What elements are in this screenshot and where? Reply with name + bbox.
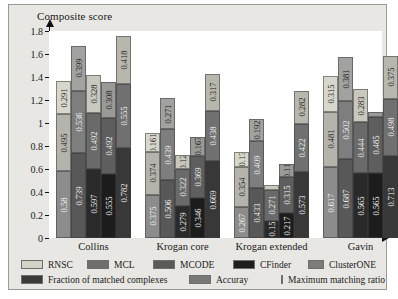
segment-maximum-matching-ratio: 0.13 [234,152,249,167]
legend-method-mcode[interactable]: MCODE [153,260,233,270]
group-label-krogan-core: Krogan core [156,241,208,252]
segment-value-label: 0.399 [74,59,83,78]
segment-accuray: 0.485 [368,117,383,173]
legend-swatch-icon [308,260,324,269]
segment-fraction-of-matched-complexes: 0.279 [175,206,190,238]
segment-accuray: 0.369 [190,156,205,198]
bar-collins-mcl[interactable]: 0.7390.5360.399 [71,46,86,238]
segment-accuray: 0.498 [383,99,398,156]
segment-fraction-of-matched-complexes: 0.617 [323,167,338,238]
segment-fraction-of-matched-complexes: 0.375 [145,195,160,238]
legend-swatch-icon [233,260,255,269]
segment-value-label: 0.315 [282,185,291,204]
bar-gavin-mcl[interactable]: 0.6870.5020.381 [338,57,353,238]
segment-value-label: 0.322 [178,178,187,197]
segment-value-label: 0.381 [341,70,350,89]
segment-value-label: 0.669 [208,190,217,209]
bar-krogan-core-mcl[interactable]: 0.5060.4390.271 [160,98,175,238]
legend-label: ClusterONE [329,260,376,270]
segment-value-label: 0.11 [282,164,291,177]
y-tick-label: 1.4 [13,72,43,83]
bar-krogan-extended-rnsc[interactable]: 0.2670.3540.13 [234,152,249,238]
segment-value-label: 0.485 [371,136,380,155]
segment-value-label: 0.279 [178,212,187,231]
legend: RNSCMCLMCODECFinderClusterONE Fraction o… [21,257,376,287]
bar-krogan-core-mcode[interactable]: 0.2790.3220.12 [175,155,190,238]
segment-value-label: 0.502 [341,121,350,140]
segment-value-label: 0.597 [89,194,98,213]
bar-gavin-cfinder[interactable]: 0.5650.485 [368,112,383,238]
segment-fraction-of-matched-complexes: 0.597 [86,169,101,238]
segment-value-label: 0.433 [252,204,261,223]
bar-krogan-extended-cfinder[interactable]: 0.2170.3150.11 [279,164,294,238]
legend-label: MCL [114,260,135,270]
segment-value-label: 0.565 [356,196,365,215]
segment-value-label: 0.167 [193,137,202,156]
segment-accuray: 0.502 [338,101,353,159]
segment-maximum-matching-ratio: 0.418 [116,36,131,84]
segment-value-label: 0.495 [59,133,68,152]
legend-row-methods: RNSCMCLMCODECFinderClusterONE [21,257,376,272]
segment-value-label: 0.308 [104,90,113,109]
bar-gavin-mcode[interactable]: 0.5650.4440.283 [353,89,368,238]
legend-method-cfinder[interactable]: CFinder [233,260,308,270]
bar-krogan-core-cfinder[interactable]: 0.3460.3690.167 [190,137,205,238]
segment-value-label: 0.492 [104,136,113,155]
segment-maximum-matching-ratio: 0.283 [353,89,368,122]
segment-maximum-matching-ratio: 0.12 [175,155,190,169]
segment-value-label: 0.291 [59,88,68,107]
legend-metric-maximum-matching-ratio[interactable]: Maximum matching ratio [281,275,376,285]
segment-value-label: 0.375 [386,68,395,87]
segment-accuray: 0.422 [294,124,309,173]
bar-gavin-rnsc[interactable]: 0.6170.4810.315 [323,76,338,238]
segment-value-label: 0.565 [371,196,380,215]
segment-value-label: 0.492 [89,132,98,151]
bar-krogan-core-clusterone[interactable]: 0.6690.4380.317 [205,74,220,238]
segment-value-label: 0.782 [119,183,128,202]
segment-value-label: 0.374 [148,164,157,183]
bar-krogan-extended-clusterone[interactable]: 0.5730.4220.282 [294,91,309,238]
legend-metric-fraction-of-matched-complexes[interactable]: Fraction of matched complexes [21,275,189,285]
segment-value-label: 0.687 [341,189,350,208]
legend-label: RNSC [48,260,73,270]
segment-value-label: 0.15 [267,222,276,237]
legend-swatch-icon [189,275,211,284]
plot-area: 0.580.4950.2910.7390.5360.3990.5970.4920… [49,31,382,238]
legend-swatch-icon [21,260,43,269]
segment-maximum-matching-ratio: 0.399 [71,46,86,92]
group-label-gavin: Gavin [348,241,374,252]
segment-maximum-matching-ratio: 0.328 [86,75,101,113]
bar-collins-cfinder[interactable]: 0.5550.4920.308 [101,82,116,238]
segment-value-label: 0.439 [163,145,172,164]
segment-maximum-matching-ratio: 0.291 [56,81,71,114]
segment-fraction-of-matched-complexes: 0.565 [368,173,383,238]
segment-accuray: 0.438 [205,111,220,161]
segment-value-label: 0.418 [119,51,128,70]
bar-gavin-clusterone[interactable]: 0.7130.4980.375 [383,56,398,238]
bar-krogan-extended-mcode[interactable]: 0.150.271 [264,185,279,238]
legend-label: Maximum matching ratio [288,275,385,285]
segment-value-label: 0.422 [297,138,306,157]
segment-fraction-of-matched-complexes: 0.555 [101,174,116,238]
legend-method-clusterone[interactable]: ClusterONE [308,260,376,270]
segment-maximum-matching-ratio: 0.282 [294,91,309,123]
segment-fraction-of-matched-complexes: 0.669 [205,161,220,238]
legend-method-rnsc[interactable]: RNSC [21,260,87,270]
segment-maximum-matching-ratio: 0.271 [160,98,175,129]
segment-value-label: 0.271 [267,196,276,215]
bar-collins-clusterone[interactable]: 0.7820.5550.418 [116,36,131,238]
legend-label: Accuray [216,275,248,285]
segment-fraction-of-matched-complexes: 0.267 [234,207,249,238]
legend-metric-accuray[interactable]: Accuray [189,275,281,285]
segment-value-label: 0.369 [193,167,202,186]
legend-method-mcl[interactable]: MCL [87,260,153,270]
segment-accuray: 0.374 [145,152,160,195]
bar-collins-rnsc[interactable]: 0.580.4950.291 [56,81,71,238]
legend-swatch-icon [281,275,283,284]
y-tick-label: 0.2 [13,210,43,221]
bar-krogan-extended-mcl[interactable]: 0.4330.4090.192 [249,119,264,238]
bar-krogan-core-rnsc[interactable]: 0.3750.3740.161 [145,133,160,238]
segment-accuray: 0.354 [234,167,249,208]
segment-accuray: 0.536 [71,91,86,153]
bar-collins-mcode[interactable]: 0.5970.4920.328 [86,75,101,238]
